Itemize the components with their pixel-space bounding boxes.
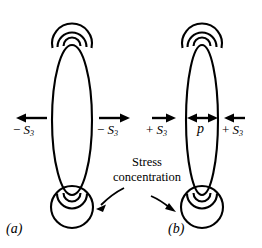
panel-a-right-subscript: 3: [114, 129, 118, 138]
panel-b-right-traction-label: + S3: [222, 123, 243, 138]
panel-a-cavity-ellipse: [52, 45, 92, 195]
panel-a-bottom-nested-circles: [51, 186, 93, 228]
stress-concentration-line1: Stress: [113, 155, 181, 170]
panel-a-caption: (a): [6, 222, 22, 236]
stress-concentration-pointer-a: [96, 188, 124, 212]
panel-b-right-subscript: 3: [239, 129, 243, 138]
panel-b-pressure-label: p: [197, 122, 204, 136]
panel-a-left-subscript: 3: [30, 129, 34, 138]
panel-a-right-traction-label: − S3: [97, 123, 118, 138]
panel-b-caption: (b): [168, 222, 184, 236]
panel-b-left-subscript: 3: [163, 129, 167, 138]
panel-a-left-sign: −: [13, 122, 20, 137]
stress-concentration-annotation: Stress concentration: [113, 155, 181, 185]
panel-b-left-traction-label: + S3: [146, 123, 167, 138]
panel-b-right-sign: +: [222, 122, 229, 137]
panel-b-bottom-nested-circles: [181, 186, 223, 228]
panel-a-right-sign: −: [97, 122, 104, 137]
stress-concentration-line2: concentration: [113, 170, 181, 185]
panel-a-left-traction-label: − S3: [13, 123, 34, 138]
panel-b-left-sign: +: [146, 122, 153, 137]
stress-concentration-pointer-b: [151, 196, 176, 212]
